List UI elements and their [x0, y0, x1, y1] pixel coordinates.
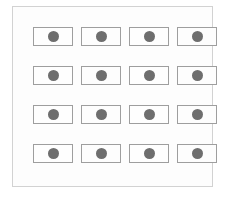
circle-icon	[48, 70, 59, 81]
outer-frame: cell-r1-c1cell-r1-c2cell-r1-c3cell-r1-c4…	[12, 6, 213, 187]
flag-cell: cell-r2-c1	[33, 66, 73, 85]
diagram-canvas: cell-r1-c1cell-r1-c2cell-r1-c3cell-r1-c4…	[0, 0, 225, 197]
circle-icon	[96, 70, 107, 81]
circle-icon	[192, 148, 203, 159]
flag-cell: cell-r2-c2	[81, 66, 121, 85]
circle-icon	[48, 148, 59, 159]
flag-cell: cell-r3-c3	[129, 105, 169, 124]
flag-cell: cell-r4-c2	[81, 144, 121, 163]
flag-grid: cell-r1-c1cell-r1-c2cell-r1-c3cell-r1-c4…	[33, 27, 218, 165]
flag-cell: cell-r1-c4	[177, 27, 217, 46]
circle-icon	[144, 70, 155, 81]
flag-cell: cell-r3-c1	[33, 105, 73, 124]
flag-cell: cell-r3-c2	[81, 105, 121, 124]
flag-cell: cell-r3-c4	[177, 105, 217, 124]
flag-cell: cell-r1-c2	[81, 27, 121, 46]
flag-cell: cell-r1-c3	[129, 27, 169, 46]
circle-icon	[48, 31, 59, 42]
circle-icon	[192, 70, 203, 81]
flag-cell: cell-r2-c4	[177, 66, 217, 85]
circle-icon	[96, 31, 107, 42]
circle-icon	[144, 31, 155, 42]
flag-cell: cell-r1-c1	[33, 27, 73, 46]
circle-icon	[144, 109, 155, 120]
circle-icon	[96, 109, 107, 120]
circle-icon	[144, 148, 155, 159]
circle-icon	[48, 109, 59, 120]
circle-icon	[192, 31, 203, 42]
flag-cell: cell-r4-c1	[33, 144, 73, 163]
flag-cell: cell-r4-c4	[177, 144, 217, 163]
flag-cell: cell-r2-c3	[129, 66, 169, 85]
flag-cell: cell-r4-c3	[129, 144, 169, 163]
circle-icon	[96, 148, 107, 159]
circle-icon	[192, 109, 203, 120]
